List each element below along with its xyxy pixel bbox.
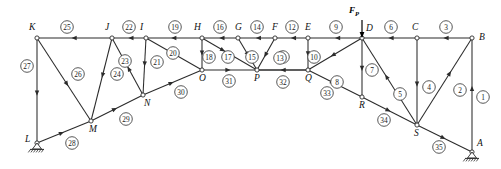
member-number-16: 16: [214, 21, 227, 34]
truss-diagram: 1234567891011121314151617181920212223242…: [0, 0, 501, 169]
member-13: [257, 38, 275, 70]
member-22: [112, 36, 146, 40]
member-26: [37, 38, 91, 121]
member-arrow-7: [360, 66, 364, 71]
member-27: [35, 38, 39, 143]
member-arrow-4: [415, 82, 419, 87]
member-16: [202, 36, 238, 40]
member-arrow-27: [35, 91, 39, 96]
member-number-label-31: 31: [225, 77, 233, 86]
member-number-20: 20: [167, 47, 180, 60]
member-number-6: 6: [385, 21, 398, 34]
joint-I: [144, 36, 148, 40]
support-A: [463, 152, 479, 161]
node-label-K: K: [28, 22, 36, 32]
member-number-label-13: 13: [276, 54, 284, 63]
member-number-label-21: 21: [153, 58, 161, 67]
member-number-1: 1: [477, 91, 490, 104]
member-24: [91, 38, 112, 121]
member-number-label-8: 8: [335, 78, 339, 87]
node-label-J: J: [105, 22, 110, 32]
member-4: [415, 38, 419, 125]
member-number-14: 14: [251, 21, 264, 34]
member-29: [91, 95, 143, 121]
node-label-B: B: [479, 32, 485, 42]
member-number-label-19: 19: [171, 23, 179, 32]
node-label-I: I: [139, 22, 144, 32]
member-arrow-12: [291, 36, 296, 40]
member-arrow-2: [446, 71, 451, 77]
member-arrow-1: [470, 86, 474, 91]
node-label-G: G: [235, 22, 242, 32]
joint-B: [470, 36, 474, 40]
member-number-3: 3: [440, 21, 453, 34]
member-25: [37, 36, 112, 40]
member-number-4: 4: [423, 81, 436, 94]
member-arrow-3: [443, 36, 448, 40]
node-label-R: R: [358, 100, 365, 110]
member-12: [275, 36, 308, 40]
member-arrow-28: [58, 132, 64, 136]
node-label-C: C: [412, 22, 419, 32]
node-label-F: F: [271, 22, 278, 32]
member-number-29: 29: [120, 113, 133, 126]
support-L: [28, 143, 44, 152]
member-number-label-20: 20: [169, 49, 177, 58]
member-number-19: 19: [169, 21, 182, 34]
member-number-18: 18: [203, 51, 216, 64]
joint-Q: [306, 68, 310, 72]
member-3: [417, 36, 472, 40]
member-number-31: 31: [223, 75, 236, 88]
force-fp: FP: [348, 5, 364, 38]
node-label-L: L: [24, 134, 30, 144]
member-number-33: 33: [321, 87, 334, 100]
member-number-label-4: 4: [427, 83, 431, 92]
member-number-label-26: 26: [74, 70, 82, 79]
member-9: [308, 36, 362, 40]
member-number-25: 25: [61, 21, 74, 34]
member-7: [360, 38, 364, 97]
member-31: [202, 68, 257, 72]
member-number-5: 5: [394, 88, 407, 101]
joint-E: [306, 36, 310, 40]
member-number-21: 21: [151, 56, 164, 69]
member-number-label-9: 9: [334, 23, 338, 32]
member-19: [146, 36, 202, 40]
member-1: [470, 38, 474, 152]
member-number-32: 32: [277, 76, 290, 89]
member-number-label-35: 35: [435, 143, 443, 152]
member-number-label-25: 25: [63, 23, 71, 32]
member-number-label-17: 17: [224, 53, 232, 62]
member-number-10: 10: [308, 51, 321, 64]
member-number-30: 30: [175, 86, 188, 99]
node-label-O: O: [199, 73, 206, 83]
member-number-9: 9: [330, 21, 343, 34]
member-arrow-16: [219, 36, 224, 40]
member-arrow-6: [388, 36, 393, 40]
member-number-label-29: 29: [122, 115, 130, 124]
member-number-label-5: 5: [398, 90, 402, 99]
joint-O: [200, 68, 204, 72]
member-number-34: 34: [378, 114, 391, 127]
node-label-E: E: [304, 22, 311, 32]
node-label-P: P: [253, 73, 260, 83]
member-number-label-3: 3: [444, 23, 448, 32]
member-arrow-25: [72, 36, 77, 40]
member-arrow-21: [143, 61, 147, 66]
member-arrow-5: [385, 75, 390, 81]
member-number-2: 2: [454, 84, 467, 97]
member-number-label-30: 30: [177, 88, 185, 97]
force-fp-subscript: P: [355, 10, 360, 17]
member-arrow-22: [128, 36, 133, 40]
node-label-Q: Q: [305, 73, 312, 83]
joint-R: [360, 95, 364, 99]
member-arrow-19: [171, 36, 176, 40]
joint-C: [415, 36, 419, 40]
member-line-26: [37, 38, 91, 121]
member-line-24: [91, 38, 112, 121]
member-number-label-23: 23: [121, 57, 129, 66]
joint-S: [415, 123, 419, 127]
member-arrow-31: [225, 68, 230, 72]
joint-K: [35, 36, 39, 40]
joint-M: [89, 119, 93, 123]
